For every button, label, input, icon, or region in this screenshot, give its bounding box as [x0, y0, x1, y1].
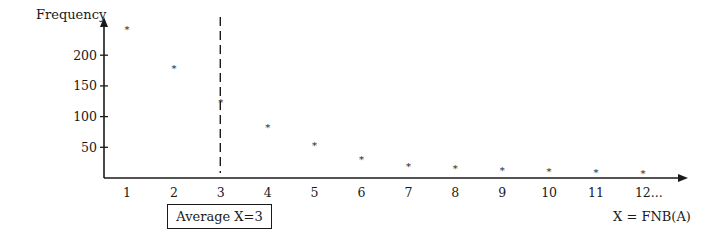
data-points: ************	[125, 24, 646, 179]
data-point-marker: *	[547, 166, 552, 177]
y-tick-label: 200	[73, 48, 97, 63]
x-tick-label: 11	[588, 185, 604, 200]
data-point-marker: *	[218, 97, 223, 108]
y-ticks: 50100150200	[73, 48, 108, 155]
x-tick-label: 9	[498, 185, 506, 200]
data-point-marker: *	[171, 63, 176, 74]
y-axis-arrow-icon	[100, 17, 108, 27]
data-point-marker: *	[312, 140, 317, 151]
x-tick-label: 8	[451, 185, 459, 200]
data-point-marker: *	[406, 161, 411, 172]
data-point-marker: *	[500, 165, 505, 176]
x-tick-label: 5	[311, 185, 319, 200]
y-tick-label: 100	[73, 109, 97, 124]
y-tick-label: 150	[73, 78, 97, 93]
x-tick-label: 10	[541, 185, 557, 200]
data-point-marker: *	[453, 163, 458, 174]
data-point-marker: *	[594, 167, 599, 178]
y-tick-label: 50	[81, 140, 97, 155]
data-point-marker: *	[640, 168, 645, 179]
average-annotation-box: Average X=3	[167, 204, 272, 229]
x-axis-arrow-icon	[678, 174, 688, 182]
x-axis-title: X = FNB(A)	[613, 209, 691, 224]
data-point-marker: *	[265, 122, 270, 133]
x-tick-labels: 123456789101112...	[123, 185, 663, 200]
data-point-marker: *	[359, 154, 364, 165]
data-point-marker: *	[125, 24, 130, 35]
axes	[100, 17, 688, 182]
x-tick-label: 6	[358, 185, 366, 200]
x-tick-label: 4	[264, 185, 272, 200]
x-tick-label: 2	[170, 185, 178, 200]
x-tick-label: 1	[123, 185, 131, 200]
x-tick-label: 7	[404, 185, 412, 200]
x-tick-label: 12...	[635, 185, 663, 200]
x-tick-label: 3	[217, 185, 225, 200]
